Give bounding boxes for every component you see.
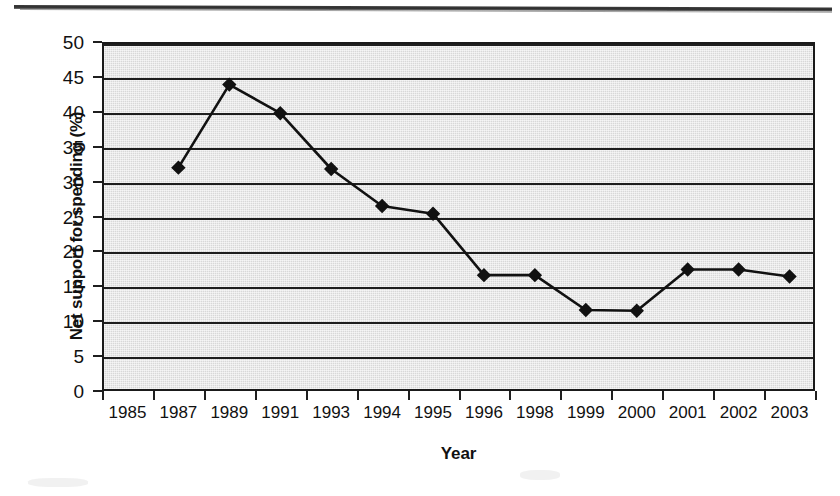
x-tick-label: 1987 <box>159 404 197 421</box>
x-tick-mark <box>102 391 104 400</box>
x-tick-label: 2000 <box>618 404 656 421</box>
line-chart: Net support for spending (%) 50454035302… <box>0 0 840 496</box>
x-tick-mark <box>306 391 308 400</box>
x-tick-mark <box>459 391 461 400</box>
x-tick-label: 1998 <box>516 404 554 421</box>
x-tick-label: 1991 <box>261 404 299 421</box>
x-tick-mark <box>509 391 511 400</box>
y-tick-mark <box>93 250 102 252</box>
y-tick-mark <box>93 285 102 287</box>
y-tick-mark <box>93 181 102 183</box>
y-tick-mark <box>93 111 102 113</box>
y-tick-mark <box>93 76 102 78</box>
x-tick-mark <box>815 391 817 400</box>
y-tick-mark <box>93 41 102 43</box>
y-tick-label: 10 <box>63 312 84 331</box>
y-tick-label: 25 <box>63 207 84 226</box>
y-tick-mark <box>93 390 102 392</box>
y-tick-label: 40 <box>63 102 84 121</box>
x-tick-label: 1994 <box>363 404 401 421</box>
y-tick-mark <box>93 216 102 218</box>
gridline <box>104 357 813 359</box>
y-tick-label: 50 <box>63 33 84 52</box>
x-tick-label: 2001 <box>669 404 707 421</box>
gridline <box>104 218 813 220</box>
x-tick-label: 1995 <box>414 404 452 421</box>
x-tick-mark <box>611 391 613 400</box>
y-tick-label: 30 <box>63 172 84 191</box>
x-tick-label: 1999 <box>567 404 605 421</box>
x-tick-label: 1985 <box>109 404 147 421</box>
y-tick-label: 5 <box>73 347 84 366</box>
x-tick-mark <box>408 391 410 400</box>
x-tick-mark <box>255 391 257 400</box>
gridline <box>104 113 813 115</box>
y-tick-mark <box>93 355 102 357</box>
x-tick-label: 2003 <box>771 404 809 421</box>
x-tick-mark <box>764 391 766 400</box>
x-tick-label: 1989 <box>210 404 248 421</box>
gridline <box>104 78 813 80</box>
y-tick-label: 45 <box>63 67 84 86</box>
y-tick-label: 15 <box>63 277 84 296</box>
y-tick-label: 20 <box>63 242 84 261</box>
x-tick-mark <box>357 391 359 400</box>
x-tick-mark <box>204 391 206 400</box>
x-tick-mark <box>713 391 715 400</box>
y-tick-mark <box>93 320 102 322</box>
x-tick-mark <box>662 391 664 400</box>
y-tick-mark <box>93 146 102 148</box>
gridline <box>104 44 813 46</box>
gridline <box>104 287 813 289</box>
x-axis-title: Year <box>102 444 815 464</box>
x-axis-tick-labels: 1985198719891991199319941995199619981999… <box>0 404 840 434</box>
y-tick-label: 35 <box>63 137 84 156</box>
y-tick-label: 0 <box>73 382 84 401</box>
x-tick-label: 2002 <box>720 404 758 421</box>
x-tick-mark <box>153 391 155 400</box>
plot-area <box>102 42 815 391</box>
x-tick-label: 1993 <box>312 404 350 421</box>
gridline <box>104 183 813 185</box>
gridline <box>104 148 813 150</box>
gridline <box>104 252 813 254</box>
x-tick-label: 1996 <box>465 404 503 421</box>
gridline <box>104 322 813 324</box>
page-root: Net support for spending (%) 50454035302… <box>0 0 840 496</box>
x-tick-mark <box>560 391 562 400</box>
